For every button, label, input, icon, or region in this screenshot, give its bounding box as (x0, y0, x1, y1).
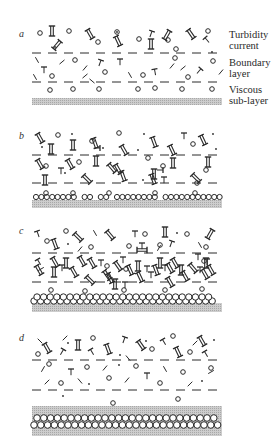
floc-ladder-icon (113, 260, 124, 272)
grain-dot-icon (212, 133, 214, 135)
bed-band (32, 98, 222, 105)
floc-ladder-icon (180, 270, 191, 282)
deposited-grain-icon (65, 422, 72, 429)
grain-dot-icon (88, 383, 90, 385)
grain-circle-icon (185, 232, 190, 237)
deposited-grain-icon (205, 294, 211, 300)
deposited-grain-icon (143, 415, 150, 422)
grain-circle-icon (45, 239, 50, 244)
floc-ladder-icon (162, 29, 173, 41)
deposited-grain-icon (163, 415, 170, 422)
grain-circle-icon (89, 245, 94, 250)
deposited-grain-icon (31, 422, 38, 429)
particle-tee-icon (96, 59, 104, 67)
particle-tee-icon (34, 230, 42, 238)
grain-circle-icon (107, 191, 112, 196)
floc-ladder-icon (42, 175, 48, 185)
flake-tick-icon (63, 336, 68, 341)
floc-ladder-icon (65, 158, 76, 170)
deposited-grain-icon (50, 194, 55, 199)
grain-circle-icon (127, 244, 132, 249)
bed-band (32, 200, 222, 208)
deposited-grain-icon (67, 294, 73, 300)
deposited-grain-icon (136, 194, 141, 199)
deposited-grain-icon (133, 294, 139, 300)
deposited-grain-icon (38, 422, 45, 429)
deposited-grain-icon (163, 194, 168, 199)
grain-dot-icon (145, 340, 147, 342)
floc-ladder-icon (119, 144, 130, 156)
floc-ladder-icon (35, 132, 46, 144)
deposited-grain-icon (41, 415, 48, 422)
flake-tick-icon (78, 247, 82, 252)
floc-ladder-icon (48, 144, 54, 154)
deposited-grain-icon (82, 194, 87, 199)
deposited-grain-icon (72, 422, 79, 429)
deposited-grain-icon (98, 194, 103, 199)
deposited-grain-icon (201, 194, 206, 199)
deposited-grain-icon (129, 415, 136, 422)
grain-circle-icon (56, 133, 61, 138)
particle-tee-icon (203, 36, 212, 45)
particle-tee-icon (41, 67, 47, 73)
deposited-grain-icon (88, 415, 95, 422)
deposited-grain-icon (174, 194, 179, 199)
particle-tee-icon (161, 177, 167, 183)
grain-dot-icon (213, 339, 215, 341)
deposited-grain-icon (75, 415, 82, 422)
panel-b (32, 131, 224, 208)
flake-tick-icon (198, 242, 201, 248)
floc-ladder-icon (135, 271, 145, 283)
particle-tee-icon (144, 373, 150, 379)
deposited-grain-icon (60, 194, 65, 199)
floc-ladder-icon (35, 158, 46, 170)
floc-ladder-icon (187, 262, 198, 274)
deposited-grain-icon (102, 415, 109, 422)
panel-a (32, 26, 224, 105)
particle-tee-icon (144, 266, 150, 272)
deposited-grain-icon (54, 415, 61, 422)
layer-label-line: Turbidity (229, 29, 268, 40)
grain-circle-icon (103, 70, 108, 75)
flake-tick-icon (41, 366, 44, 372)
grain-circle-icon (85, 365, 90, 370)
deposited-grain-icon (99, 422, 106, 429)
deposited-grain-icon (51, 422, 58, 429)
particle-tee-icon (120, 257, 126, 263)
deposited-grain-icon (61, 415, 68, 422)
grain-circle-icon (143, 232, 148, 237)
deposited-grain-icon (81, 415, 88, 422)
flake-tick-icon (181, 66, 186, 70)
grain-dot-icon (201, 380, 203, 382)
grain-circle-icon (48, 88, 53, 93)
grain-circle-icon (186, 75, 191, 80)
floc-ladder-icon (136, 339, 147, 351)
grain-circle-icon (137, 37, 142, 42)
deposited-grain-icon (214, 422, 221, 429)
grain-circle-icon (83, 289, 88, 294)
floc-ladder-icon (197, 335, 208, 347)
panel-letter-a: a (19, 28, 24, 39)
grain-circle-icon (141, 73, 146, 78)
grain-circle-icon (136, 87, 141, 92)
grain-circle-icon (50, 74, 55, 79)
floc-ladder-icon (198, 134, 208, 146)
deposited-grain-icon (122, 415, 129, 422)
deposited-grain-icon (211, 415, 218, 422)
deposited-grain-icon (141, 194, 146, 199)
floc-ladder-icon (103, 343, 112, 355)
particle-tee-icon (148, 272, 154, 278)
grain-circle-icon (209, 366, 214, 371)
particle-tee-icon (152, 69, 159, 76)
deposited-grain-icon (204, 415, 211, 422)
deposited-grain-icon (112, 422, 119, 429)
layer-label-line: current (229, 40, 268, 51)
grain-circle-icon (176, 397, 181, 402)
grain-circle-icon (204, 168, 209, 173)
deposited-grain-icon (120, 294, 126, 300)
grain-dot-icon (41, 146, 43, 148)
floc-ladder-icon (51, 39, 62, 51)
flake-tick-icon (83, 74, 88, 78)
deposited-grain-icon (167, 422, 174, 429)
grain-circle-icon (171, 334, 176, 339)
